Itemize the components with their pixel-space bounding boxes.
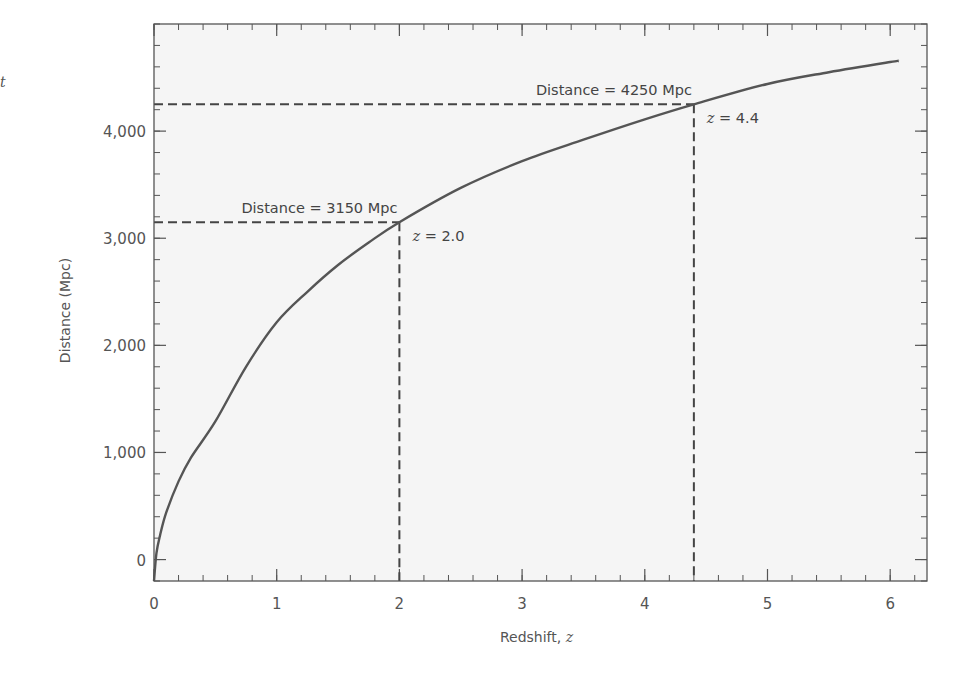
x-tick-label: 3 [517, 595, 527, 613]
x-tick-label: 5 [763, 595, 773, 613]
x-tick-label: 0 [149, 595, 159, 613]
x-tick-label: 1 [272, 595, 282, 613]
redshift-annotation-label: z = 4.4 [706, 110, 759, 126]
distance-annotation-label: Distance = 3150 Mpc [241, 200, 397, 216]
y-tick-label: 2,000 [103, 337, 146, 355]
y-tick-label: 4,000 [103, 123, 146, 141]
y-tick-label: 1,000 [103, 444, 146, 462]
x-tick-labels: 0123456 [149, 595, 895, 613]
distance-annotation-label: Distance = 4250 Mpc [536, 82, 692, 98]
y-tick-labels: 01,0002,0003,0004,000 [103, 123, 146, 569]
x-tick-label: 4 [640, 595, 650, 613]
y-tick-label: 3,000 [103, 230, 146, 248]
plot-area [154, 24, 927, 581]
y-axis-title: Distance (Mpc) [57, 258, 73, 363]
x-tick-label: 2 [395, 595, 405, 613]
x-tick-label: 6 [885, 595, 895, 613]
distance-redshift-chart: 0123456 01,0002,0003,0004,000 Distance =… [0, 0, 968, 685]
redshift-annotation-label: z = 2.0 [411, 228, 464, 244]
x-axis-title: Redshift, z [500, 629, 574, 645]
y-tick-label: 0 [136, 552, 146, 570]
